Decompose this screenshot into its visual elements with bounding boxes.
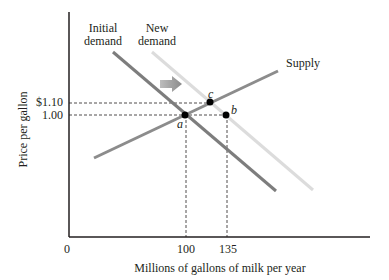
- xtick-0: 0: [64, 243, 70, 256]
- new-demand-label-line2: demand: [130, 35, 184, 48]
- y-axis-label: Price per gallon: [16, 85, 31, 175]
- xtick-100: 100: [170, 243, 202, 256]
- ytick-100: 1.00: [42, 109, 63, 122]
- xtick-135: 135: [215, 243, 241, 256]
- point-b: [223, 112, 230, 119]
- point-a-label: a: [177, 118, 183, 131]
- initial-demand-curve: [113, 52, 276, 191]
- initial-demand-label: Initial demand: [76, 22, 130, 48]
- point-c-label: c: [208, 88, 213, 101]
- x-axis-label: Millions of gallons of milk per year: [120, 262, 320, 275]
- chart-plot: [0, 0, 389, 280]
- point-b-label: b: [231, 104, 237, 117]
- supply-label: Supply: [286, 57, 320, 70]
- new-demand-label: New demand: [130, 22, 184, 48]
- shift-arrow-icon: [160, 76, 182, 92]
- initial-demand-label-line2: demand: [76, 35, 130, 48]
